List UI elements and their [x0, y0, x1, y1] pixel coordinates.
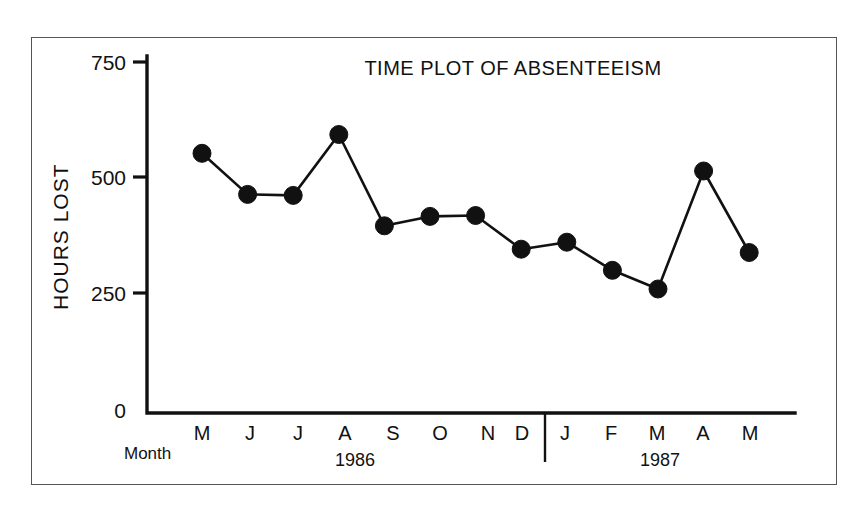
y-axis-tick-label-250: 250 [91, 282, 126, 305]
y-axis-tick-label-500: 500 [91, 166, 126, 189]
x-month-label-8: J [560, 422, 570, 444]
axis-lines [147, 56, 795, 413]
x-year-label-1987: 1987 [640, 450, 680, 470]
x-month-label-11: A [696, 422, 710, 444]
series-markers-group [193, 126, 758, 299]
absenteeism-time-plot: TIME PLOT OF ABSENTEEISM 750 500 250 0 H… [0, 0, 864, 508]
chart-canvas: TIME PLOT OF ABSENTEEISM 750 500 250 0 H… [0, 0, 864, 508]
data-point-marker [330, 126, 348, 144]
chart-title: TIME PLOT OF ABSENTEEISM [364, 57, 661, 79]
x-year-label-1986: 1986 [335, 450, 375, 470]
x-month-label-7: D [515, 422, 529, 444]
y-axis-title: HOURS LOST [49, 163, 72, 310]
y-axis-tick-label-750: 750 [91, 51, 126, 74]
data-point-marker [193, 144, 211, 162]
x-month-label-3: A [338, 422, 352, 444]
data-point-marker [558, 233, 576, 251]
data-point-marker [695, 162, 713, 180]
x-month-label-2: J [293, 422, 303, 444]
data-point-marker [467, 207, 485, 225]
data-point-marker [375, 217, 393, 235]
x-month-label-12: M [742, 422, 759, 444]
x-month-label-5: O [432, 422, 448, 444]
data-point-marker [239, 185, 257, 203]
x-month-label-9: F [605, 422, 617, 444]
y-axis-tick-label-0: 0 [114, 399, 126, 422]
data-point-marker [421, 207, 439, 225]
month-caption-label: Month [124, 444, 171, 463]
data-point-marker [284, 186, 302, 204]
x-axis-month-labels: M J J A S O N D J F M A M [194, 422, 759, 444]
data-point-marker [649, 280, 667, 298]
data-point-marker [740, 244, 758, 262]
x-month-label-0: M [194, 422, 211, 444]
x-month-label-10: M [649, 422, 666, 444]
data-point-marker [603, 261, 621, 279]
x-month-label-6: N [481, 422, 495, 444]
x-month-label-1: J [245, 422, 255, 444]
x-month-label-4: S [386, 422, 399, 444]
data-point-marker [512, 240, 530, 258]
